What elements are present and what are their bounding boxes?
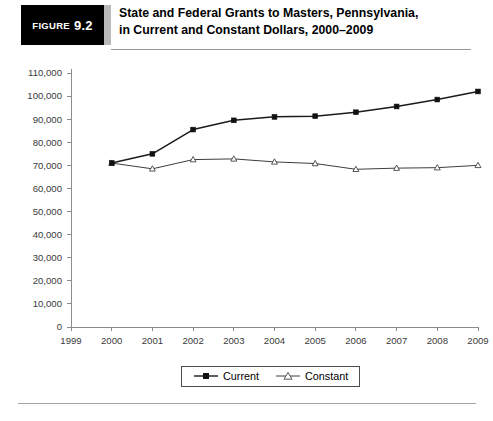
legend-entry-current: Current <box>193 370 259 382</box>
data-point-marker <box>354 110 359 115</box>
x-axis-tick-label: 2002 <box>182 335 203 346</box>
x-axis-tick-label: 1999 <box>60 335 81 346</box>
y-axis-tick-label: 80,000 <box>33 137 62 148</box>
data-point-marker <box>272 114 277 119</box>
figure-badge-number: 9.2 <box>74 18 93 33</box>
data-point-marker <box>476 89 481 94</box>
legend-swatch-constant-icon <box>275 371 301 381</box>
figure-badge-word: Figure <box>32 20 70 31</box>
x-axis-tick-label: 2006 <box>345 335 366 346</box>
figure-header: Figure 9.2 State and Federal Grants to M… <box>0 0 493 52</box>
legend-entry-constant: Constant <box>275 370 348 382</box>
y-axis-tick-labels: 010,00020,00030,00040,00050,00060,00070,… <box>27 67 62 332</box>
y-axis-tick-label: 30,000 <box>33 252 62 263</box>
series-markers-current <box>109 89 480 165</box>
line-chart-svg: 010,00020,00030,00040,00050,00060,00070,… <box>0 52 493 392</box>
y-axis-tick-label: 0 <box>57 321 62 332</box>
y-axis-tick-label: 90,000 <box>33 114 62 125</box>
x-axis-tick-labels: 1999200020012002200320042005200620072008… <box>60 335 488 346</box>
y-axis-tick-label: 70,000 <box>33 160 62 171</box>
data-point-marker <box>150 151 155 156</box>
chart-plot-area: 010,00020,00030,00040,00050,00060,00070,… <box>0 52 493 392</box>
x-axis-tick-label: 2003 <box>223 335 244 346</box>
y-axis-tick-label: 40,000 <box>33 229 62 240</box>
y-axis-tick-label: 110,000 <box>28 67 62 78</box>
figure-number-badge: Figure 9.2 <box>21 5 104 45</box>
y-axis-tick-label: 50,000 <box>33 206 62 217</box>
data-point-marker <box>191 127 196 132</box>
legend-label-constant: Constant <box>305 370 348 382</box>
x-axis-tick-label: 2007 <box>386 335 407 346</box>
data-point-marker <box>109 161 114 166</box>
figure-title: State and Federal Grants to Masters, Pen… <box>119 5 479 38</box>
data-point-marker <box>313 114 318 119</box>
x-axis-tick-label: 2004 <box>264 335 286 346</box>
x-axis-tick-label: 2008 <box>427 335 448 346</box>
data-point-marker <box>394 104 399 109</box>
figure-title-line-2: in Current and Constant Dollars, 2000–20… <box>119 22 479 39</box>
series-line-current <box>112 91 478 163</box>
figure-title-line-1: State and Federal Grants to Masters, Pen… <box>119 5 479 22</box>
chart-legend: Current Constant <box>181 366 360 387</box>
legend-swatch-current-icon <box>193 371 219 381</box>
y-axis-tick-marks <box>67 73 71 327</box>
y-axis-tick-label: 10,000 <box>33 298 62 309</box>
legend-label-current: Current <box>223 370 259 382</box>
y-axis-tick-label: 100,000 <box>27 90 62 101</box>
y-axis-tick-label: 60,000 <box>33 183 62 194</box>
data-point-marker <box>475 162 481 167</box>
footer-divider-rule <box>18 403 476 404</box>
x-axis-tick-label: 2005 <box>305 335 326 346</box>
x-axis-tick-marks <box>71 327 478 331</box>
x-axis-tick-label: 2009 <box>467 335 488 346</box>
badge-gray-band <box>104 5 111 45</box>
x-axis-tick-label: 2001 <box>142 335 163 346</box>
y-axis-tick-label: 20,000 <box>33 275 62 286</box>
data-point-marker <box>231 118 236 123</box>
x-axis-tick-label: 2000 <box>101 335 122 346</box>
header-divider-rule <box>111 49 471 50</box>
data-point-marker <box>435 97 440 102</box>
series-line-constant <box>112 159 478 169</box>
series-markers-constant <box>109 156 481 172</box>
